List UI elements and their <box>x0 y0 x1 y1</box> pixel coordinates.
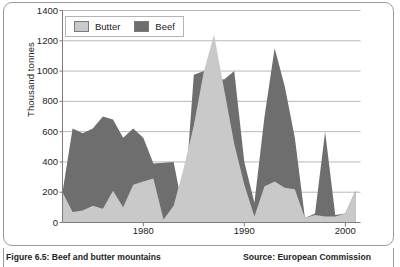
x-axis-tick-label: 1980 <box>113 226 173 236</box>
figure-source: Source: European Commission <box>243 252 371 262</box>
figure-page: Thousand tonnes 020040060080010001200140… <box>0 0 400 267</box>
figure-caption: Figure 6.5: Beef and butter mountains <box>6 252 161 262</box>
chart-legend: Butter Beef <box>65 16 184 37</box>
legend-swatch-beef <box>134 21 149 32</box>
x-axis-tick-labels: 198019902000 <box>0 0 400 240</box>
legend-item-beef: Beef <box>134 21 175 32</box>
area-chart: Thousand tonnes 020040060080010001200140… <box>0 0 400 240</box>
legend-item-butter: Butter <box>74 21 120 32</box>
x-axis-tick-label: 1990 <box>214 226 274 236</box>
legend-label-butter: Butter <box>95 22 120 32</box>
legend-swatch-butter <box>74 21 89 32</box>
legend-label-beef: Beef <box>155 22 175 32</box>
figure-caption-row: Figure 6.5: Beef and butter mountains So… <box>0 252 400 267</box>
x-axis-tick-label: 2000 <box>315 226 375 236</box>
